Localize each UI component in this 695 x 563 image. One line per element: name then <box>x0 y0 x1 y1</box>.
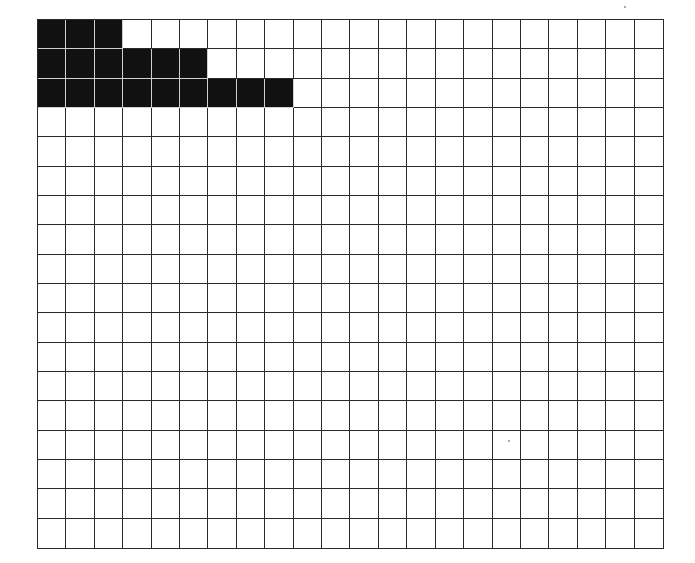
grid-cell-empty <box>549 196 577 225</box>
grid-cell-empty <box>578 489 606 518</box>
grid-cell-empty <box>606 167 634 196</box>
grid-cell-empty <box>66 137 94 166</box>
grid-cell-empty <box>322 49 350 78</box>
grid-cell-empty <box>407 225 435 254</box>
grid-cell-empty <box>294 49 322 78</box>
grid-cell-empty <box>436 372 464 401</box>
grid-cell-empty <box>407 196 435 225</box>
grid-cell-empty <box>237 255 265 284</box>
grid-cell-empty <box>379 167 407 196</box>
grid-cell-empty <box>294 79 322 108</box>
grid-cell-empty <box>38 313 66 342</box>
grid-cell-filled <box>123 49 151 78</box>
grid-cell-empty <box>549 225 577 254</box>
grid-cell-empty <box>237 343 265 372</box>
grid-cell-empty <box>350 20 378 49</box>
grid-cell-empty <box>578 313 606 342</box>
grid-cell-empty <box>549 108 577 137</box>
grid-cell-empty <box>322 489 350 518</box>
grid-cell-empty <box>322 79 350 108</box>
grid-cell-empty <box>407 431 435 460</box>
grid-cell-empty <box>237 401 265 430</box>
grid-cell-empty <box>521 49 549 78</box>
grid-cell-empty <box>379 401 407 430</box>
grid-cell-empty <box>521 255 549 284</box>
grid-cell-empty <box>606 49 634 78</box>
grid-cell-empty <box>350 196 378 225</box>
grid-cell-empty <box>180 137 208 166</box>
grid-cell-empty <box>379 372 407 401</box>
grid-cell-empty <box>152 519 180 548</box>
grid-cell-empty <box>237 49 265 78</box>
grid-cell-empty <box>265 372 293 401</box>
grid-cell-empty <box>208 372 236 401</box>
grid-cell-empty <box>180 489 208 518</box>
grid-cell-empty <box>407 284 435 313</box>
grid-cell-filled <box>95 79 123 108</box>
grid-cell-empty <box>208 108 236 137</box>
grid-cell-empty <box>635 108 663 137</box>
grid-cell-empty <box>350 313 378 342</box>
grid-cell-empty <box>493 20 521 49</box>
grid-cell-empty <box>350 108 378 137</box>
grid-cell-empty <box>38 108 66 137</box>
grid-cell-empty <box>578 343 606 372</box>
grid-cell-empty <box>521 108 549 137</box>
grid-cell-empty <box>180 343 208 372</box>
grid-cell-empty <box>521 20 549 49</box>
grid-cell-empty <box>606 431 634 460</box>
grid-cell-empty <box>265 313 293 342</box>
grid-cell-empty <box>38 460 66 489</box>
grid-cell-empty <box>265 519 293 548</box>
grid-cell-empty <box>95 372 123 401</box>
grid-cell-empty <box>521 196 549 225</box>
grid-cell-empty <box>549 284 577 313</box>
grid-cell-empty <box>521 137 549 166</box>
grid-cell-empty <box>464 313 492 342</box>
grid-cell-empty <box>152 284 180 313</box>
grid-cell-empty <box>407 167 435 196</box>
grid-cell-empty <box>66 372 94 401</box>
grid-cell-empty <box>379 108 407 137</box>
grid-cell-empty <box>606 372 634 401</box>
grid-cell-empty <box>265 20 293 49</box>
grid-cell-empty <box>237 284 265 313</box>
grid-cell-empty <box>180 20 208 49</box>
grid-cell-filled <box>66 79 94 108</box>
grid-cell-empty <box>38 519 66 548</box>
grid-cell-empty <box>95 196 123 225</box>
grid-cell-empty <box>521 225 549 254</box>
grid-cell-empty <box>38 225 66 254</box>
grid-cell-empty <box>521 313 549 342</box>
grid-cell-empty <box>322 225 350 254</box>
grid-cell-empty <box>208 137 236 166</box>
grid-cell-empty <box>66 343 94 372</box>
grid-cell-empty <box>350 79 378 108</box>
grid-cell-empty <box>436 49 464 78</box>
grid-cell-empty <box>152 313 180 342</box>
grid-cell-empty <box>237 489 265 518</box>
grid-cell-empty <box>38 401 66 430</box>
grid-cell-empty <box>38 137 66 166</box>
grid-cell-empty <box>606 108 634 137</box>
grid-cell-empty <box>379 519 407 548</box>
grid-cell-empty <box>66 460 94 489</box>
grid-cell-empty <box>635 519 663 548</box>
grid-cell-empty <box>350 49 378 78</box>
grid-cell-filled <box>237 79 265 108</box>
grid-cell-empty <box>578 460 606 489</box>
grid-cell-empty <box>294 196 322 225</box>
grid-cell-empty <box>436 225 464 254</box>
grid-cell-empty <box>436 196 464 225</box>
grid-cell-empty <box>123 519 151 548</box>
grid-cell-empty <box>208 49 236 78</box>
grid-cell-empty <box>635 401 663 430</box>
grid-cell-empty <box>66 313 94 342</box>
grid-cell-empty <box>95 313 123 342</box>
grid-cell-empty <box>265 431 293 460</box>
grid-cell-empty <box>208 431 236 460</box>
grid-cell-empty <box>521 401 549 430</box>
grid-cell-empty <box>493 343 521 372</box>
grid-cell-empty <box>208 401 236 430</box>
grid-cell-empty <box>294 519 322 548</box>
